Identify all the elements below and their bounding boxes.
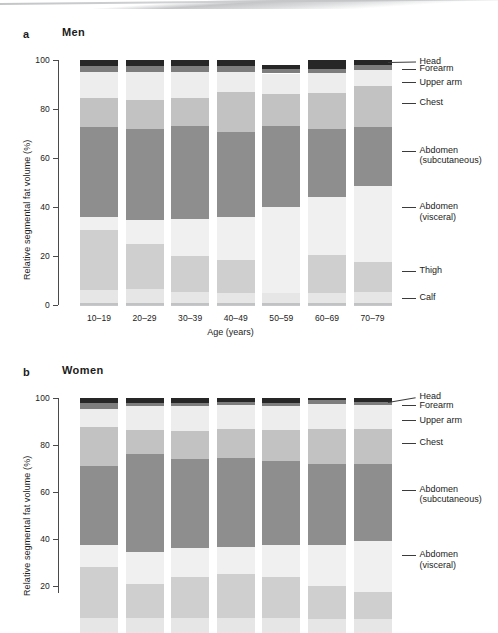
y-tick-40 bbox=[53, 207, 58, 208]
segment-thigh bbox=[262, 577, 300, 618]
bar-10-19[interactable] bbox=[80, 60, 118, 305]
segment-forearm bbox=[354, 402, 392, 406]
segment-upper-arm bbox=[354, 405, 392, 429]
y-tick-100 bbox=[53, 398, 58, 399]
legend-label-abdomen-subcutaneous: Abdomen(subcutaneous) bbox=[420, 145, 482, 166]
segment-calf bbox=[262, 618, 300, 633]
segment-thigh bbox=[126, 584, 164, 618]
bar-base-shadow bbox=[262, 303, 300, 306]
legend-label-upper-arm: Upper arm bbox=[420, 415, 463, 426]
segment-chest bbox=[171, 98, 209, 126]
y-tick-20 bbox=[53, 586, 58, 587]
segment-calf bbox=[171, 618, 209, 633]
bar-70-79[interactable] bbox=[354, 398, 392, 593]
segment-abdomen-visceral bbox=[217, 547, 255, 574]
bar-70-79[interactable] bbox=[354, 60, 392, 305]
bar-30-39[interactable] bbox=[171, 60, 209, 305]
bar-60-69[interactable] bbox=[308, 60, 346, 305]
segment-abdomen-subcutaneous bbox=[354, 127, 392, 186]
segment-head bbox=[308, 398, 346, 400]
bar-60-69[interactable] bbox=[308, 398, 346, 593]
bar-10-19[interactable] bbox=[80, 398, 118, 593]
segment-abdomen-visceral bbox=[80, 217, 118, 230]
panel-a-x-axis-label: Age (years) bbox=[58, 327, 403, 337]
legend-label-line2: (visceral) bbox=[420, 560, 459, 571]
segment-forearm bbox=[126, 403, 164, 407]
segment-forearm bbox=[308, 69, 346, 74]
segment-abdomen-subcutaneous bbox=[80, 466, 118, 545]
y-tick-40 bbox=[53, 539, 58, 540]
segment-upper-arm bbox=[80, 409, 118, 428]
x-tick-label-70-79: 70–79 bbox=[343, 313, 403, 323]
segment-abdomen-visceral bbox=[217, 217, 255, 260]
legend-label-abdomen-visceral: Abdomen(visceral) bbox=[420, 549, 459, 570]
legend-label-chest: Chest bbox=[420, 437, 444, 448]
bar-base-shadow bbox=[126, 303, 164, 306]
segment-forearm bbox=[354, 65, 392, 70]
segment-head bbox=[126, 398, 164, 403]
legend-leader-line bbox=[402, 298, 416, 299]
segment-upper-arm bbox=[262, 406, 300, 430]
bar-50-59[interactable] bbox=[262, 60, 300, 305]
y-tick-label-100: 100 bbox=[35, 55, 50, 65]
segment-forearm bbox=[262, 69, 300, 74]
legend-label-line2: (visceral) bbox=[420, 212, 459, 223]
segment-upper-arm bbox=[262, 74, 300, 95]
scan-edge-artifact bbox=[0, 0, 498, 9]
segment-forearm bbox=[126, 66, 164, 72]
bar-40-49[interactable] bbox=[217, 398, 255, 593]
segment-upper-arm bbox=[308, 404, 346, 429]
y-tick-label-20: 20 bbox=[40, 581, 50, 591]
segment-upper-arm bbox=[171, 406, 209, 431]
panel-b-plot-area: 10080604020 bbox=[58, 398, 403, 593]
segment-head bbox=[354, 60, 392, 65]
legend-leader-line bbox=[402, 405, 416, 406]
bar-40-49[interactable] bbox=[217, 60, 255, 305]
segment-abdomen-subcutaneous bbox=[262, 126, 300, 207]
segment-abdomen-visceral bbox=[126, 220, 164, 243]
segment-abdomen-visceral bbox=[171, 548, 209, 576]
panel-b-letter: b bbox=[23, 366, 30, 378]
segment-upper-arm bbox=[308, 73, 346, 93]
segment-abdomen-subcutaneous bbox=[80, 127, 118, 216]
y-tick-20 bbox=[53, 256, 58, 257]
panel-b-title: Women bbox=[62, 364, 104, 376]
segment-abdomen-visceral bbox=[308, 545, 346, 586]
bar-20-29[interactable] bbox=[126, 398, 164, 593]
segment-calf bbox=[308, 619, 346, 633]
legend-leader-line bbox=[402, 103, 416, 104]
panel-a-bars bbox=[58, 60, 403, 305]
segment-calf bbox=[217, 618, 255, 633]
segment-thigh bbox=[217, 574, 255, 617]
panel-b-women: b Women Relative segmental fat volume (%… bbox=[0, 360, 498, 593]
panel-a-plot-area: 020406080100 10–1920–2930–3940–4950–5960… bbox=[58, 60, 403, 305]
y-tick-80 bbox=[53, 445, 58, 446]
panel-a-y-axis-label: Relative segmental fat volume (%) bbox=[22, 140, 32, 280]
bar-30-39[interactable] bbox=[171, 398, 209, 593]
segment-forearm bbox=[171, 403, 209, 407]
segment-chest bbox=[308, 93, 346, 129]
segment-forearm bbox=[171, 66, 209, 72]
segment-abdomen-subcutaneous bbox=[308, 464, 346, 545]
legend-label-line2: (subcutaneous) bbox=[420, 155, 482, 166]
bar-20-29[interactable] bbox=[126, 60, 164, 305]
segment-calf bbox=[126, 618, 164, 633]
segment-forearm bbox=[80, 66, 118, 72]
segment-forearm bbox=[217, 402, 255, 406]
segment-head bbox=[308, 60, 346, 69]
legend-label-chest: Chest bbox=[420, 97, 444, 108]
legend-label-upper-arm: Upper arm bbox=[420, 77, 463, 88]
bar-50-59[interactable] bbox=[262, 398, 300, 593]
legend-leader-line bbox=[402, 69, 416, 70]
legend-leader-line bbox=[402, 82, 416, 83]
segment-head bbox=[171, 60, 209, 66]
segment-upper-arm bbox=[217, 72, 255, 92]
segment-thigh bbox=[126, 244, 164, 289]
legend-label-thigh: Thigh bbox=[420, 265, 443, 276]
segment-chest bbox=[354, 86, 392, 128]
legend-label-abdomen-visceral: Abdomen(visceral) bbox=[420, 201, 459, 222]
segment-forearm bbox=[80, 403, 118, 409]
segment-head bbox=[262, 398, 300, 403]
segment-abdomen-visceral bbox=[171, 219, 209, 256]
segment-head bbox=[262, 65, 300, 69]
